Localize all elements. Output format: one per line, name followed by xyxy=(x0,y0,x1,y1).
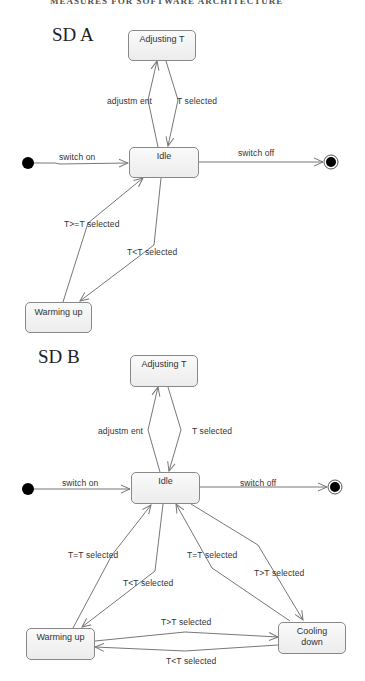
edge-b-idle-to-warm xyxy=(82,504,163,627)
edge-b-cool-to-idle xyxy=(176,504,290,621)
state-b-warming-up: Warming up xyxy=(26,628,95,660)
state-label: Warming up xyxy=(34,307,82,317)
label-b-idle-to-cool: T>T selected xyxy=(254,568,304,578)
label-b-t-selected: T selected xyxy=(192,426,232,436)
label-a-switch-off: switch off xyxy=(238,148,274,158)
initial-state-b xyxy=(22,483,34,495)
state-b-adjusting-t: Adjusting T xyxy=(130,355,198,387)
diagram-title-sd-b: SD B xyxy=(38,346,80,368)
state-b-cooling-down: Cooling down xyxy=(278,622,346,654)
label-b-switch-off: switch off xyxy=(240,478,276,488)
edge-a-switch-on xyxy=(33,163,128,164)
diagram-title-sd-a: SD A xyxy=(52,24,94,46)
label-a-idle-to-warm: T<T selected xyxy=(127,247,177,257)
state-label: Idle xyxy=(157,151,172,161)
label-a-adjustment: adjustm ent xyxy=(107,96,152,106)
label-b-adjustment: adjustm ent xyxy=(98,426,143,436)
label-a-t-selected: T selected xyxy=(177,96,217,106)
label-b-idle-to-warm: T<T selected xyxy=(123,578,173,588)
label-a-warm-to-idle: T>=T selected xyxy=(64,219,119,229)
edge-b-adjustment xyxy=(148,387,160,472)
state-a-adjusting-t: Adjusting T xyxy=(128,30,196,61)
label-b-warm-to-cool: T>T selected xyxy=(161,617,211,627)
label-b-cool-to-idle: T=T selected xyxy=(187,550,237,560)
edge-b-warm-to-cool xyxy=(95,632,278,641)
state-label: Warming up xyxy=(36,632,84,642)
state-label: Adjusting T xyxy=(142,359,187,369)
state-label: Cooling down xyxy=(297,626,328,647)
label-a-switch-on: switch on xyxy=(59,152,95,162)
edge-b-cool-to-warm xyxy=(95,645,278,651)
state-a-warming-up: Warming up xyxy=(25,302,92,333)
state-label: Idle xyxy=(158,476,173,486)
final-state-b-core xyxy=(330,482,340,492)
final-state-a-core xyxy=(326,157,336,167)
edge-b-warm-to-idle xyxy=(73,505,151,628)
label-b-switch-on: switch on xyxy=(62,478,98,488)
initial-state-a xyxy=(22,157,34,169)
state-label: Adjusting T xyxy=(140,34,185,44)
edge-b-t-selected xyxy=(168,387,181,471)
label-b-warm-to-idle: T=T selected xyxy=(68,550,118,560)
state-b-idle: Idle xyxy=(131,472,200,504)
state-a-idle: Idle xyxy=(129,147,199,178)
edge-b-idle-to-cool xyxy=(191,504,303,620)
label-b-cool-to-warm: T<T selected xyxy=(166,656,216,666)
